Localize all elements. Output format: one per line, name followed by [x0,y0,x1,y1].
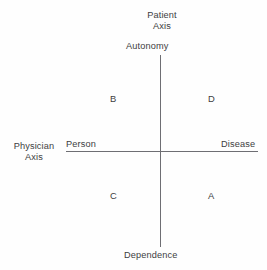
quadrant-label-upper-right: D [208,93,215,104]
quadrant-label-lower-left: C [110,190,117,201]
quadrant-diagram: PatientAxis Autonomy Dependence Physicia… [0,0,267,270]
patient-axis-title: PatientAxis [136,10,188,33]
physician-axis-title-line-2: Axis [25,152,43,162]
horizontal-axis-line [66,151,258,152]
physician-axis-title-line-1: Physician [14,141,55,151]
patient-axis-title-line-1: Patient [147,10,177,20]
quadrant-label-upper-left: B [110,93,116,104]
patient-axis-title-line-2: Axis [153,21,171,31]
quadrant-label-lower-right: A [208,190,214,201]
disease-pole-label: Disease [221,139,255,150]
dependence-pole-label: Dependence [124,250,178,261]
physician-axis-title: PhysicianAxis [8,141,60,164]
autonomy-pole-label: Autonomy [126,41,169,52]
person-pole-label: Person [66,139,96,150]
